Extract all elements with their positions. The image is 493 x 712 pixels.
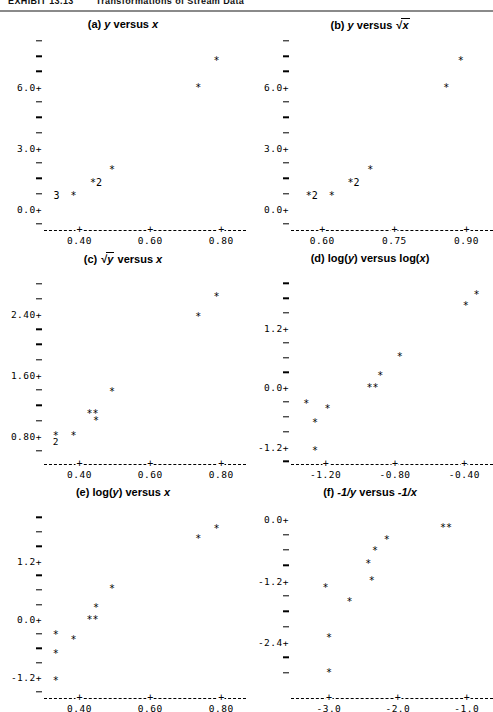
y-tick-mark [36, 40, 42, 41]
y-tick-mark [36, 117, 42, 118]
panel-title-b: (b) y versus √x [247, 18, 493, 31]
x-axis-b: +0.60+0.75+0.90 [291, 230, 493, 231]
data-point: * [326, 633, 332, 643]
panel-versus-word: versus [114, 18, 149, 30]
data-point: *2 [90, 178, 102, 188]
chart-panel-b: (b) y versus √x0.0+3.0+6.0+*2**2***+0.60… [247, 14, 493, 247]
data-point: * [109, 387, 115, 397]
y-tick-label: 1.60+ [11, 369, 42, 380]
panel-title-d: (d) log(y) versus log(x) [247, 252, 493, 264]
data-point: * [70, 431, 76, 441]
panel-x-expression: x [152, 18, 158, 30]
data-point: * [214, 524, 220, 534]
x-tick-label: 0.80 [209, 703, 234, 712]
panel-y-expression: -1/y [337, 486, 356, 498]
x-tick-mark: + [322, 459, 329, 469]
y-tick-mark [36, 589, 42, 590]
data-point: * [347, 597, 353, 607]
x-tick-mark: + [218, 225, 225, 235]
y-tick-mark [36, 389, 42, 390]
y-tick-mark [283, 401, 289, 402]
x-axis-line [44, 464, 246, 465]
y-tick-mark [283, 626, 289, 627]
data-point: * [109, 165, 115, 175]
panel-versus-word: versus [357, 19, 392, 31]
chart-panel-c: (c) √y versus x0.80+1.60+2.40+*2*******+… [0, 248, 246, 481]
x-tick-label: 0.80 [209, 235, 234, 246]
exhibit-header: EXHIBIT 13.13Transformations of Stream D… [0, 0, 493, 9]
x-tick-label: -3.0 [316, 703, 341, 712]
panel-label: (b) [330, 19, 344, 31]
data-point: * [372, 546, 378, 556]
y-tick-mark [283, 372, 289, 373]
y-tick-label: 6.0+ [17, 81, 42, 92]
panel-title-c: (c) √y versus x [0, 252, 246, 265]
y-tick-mark [36, 531, 42, 532]
header-rule [0, 10, 493, 12]
y-tick-mark [283, 595, 289, 596]
chart-panel-e: (e) log(y) versus x-1.2+0.0+1.2+********… [0, 482, 246, 712]
x-tick-label: -1.20 [310, 469, 341, 480]
y-tick-mark [36, 71, 42, 72]
y-tick-label: 1.2+ [264, 322, 289, 333]
y-tick-mark [283, 71, 289, 72]
y-tick-mark [283, 101, 289, 102]
y-tick-mark [36, 633, 42, 634]
data-point: * [324, 404, 330, 414]
y-tick-label: 1.2+ [17, 555, 42, 566]
x-tick-mark: + [147, 693, 154, 703]
y-tick-mark [283, 178, 289, 179]
x-axis-c: +0.40+0.60+0.80 [44, 464, 246, 465]
panel-versus-word: versus [125, 486, 160, 498]
data-point: * [214, 292, 220, 302]
y-tick-mark [283, 657, 289, 658]
x-tick-label: -2.0 [385, 703, 410, 712]
y-axis-e: -1.2+0.0+1.2+ [0, 504, 44, 712]
y-tick-mark [36, 178, 42, 179]
panel-label: (a) [88, 18, 101, 30]
x-axis-e: +0.40+0.60+0.80 [44, 698, 246, 699]
data-point: * [369, 576, 375, 586]
data-point: * [458, 56, 464, 66]
x-tick-mark: + [392, 459, 399, 469]
data-point: * [303, 399, 309, 409]
x-tick-mark: + [147, 225, 154, 235]
data-point: ** [440, 523, 452, 533]
data-point: * [397, 352, 403, 362]
y-tick-label: -1.2+ [258, 575, 289, 586]
panel-versus-word: versus [118, 253, 153, 265]
x-axis-a: +0.40+0.60+0.80 [44, 230, 246, 231]
data-point: * [377, 371, 383, 381]
panel-label: (e) [76, 486, 89, 498]
data-point: * [53, 649, 59, 659]
y-axis-f: -2.4+-1.2+0.0+ [247, 504, 291, 712]
y-tick-label: -1.2+ [11, 672, 42, 683]
y-tick-mark [283, 461, 289, 462]
plot-area-f: -2.4+-1.2+0.0+**********+-3.0+-2.0+-1.0 [247, 504, 493, 712]
y-tick-mark [36, 604, 42, 605]
x-tick-mark: + [394, 693, 401, 703]
panel-y-expression: √y [100, 253, 114, 265]
y-tick-label: -2.4+ [258, 636, 289, 647]
exhibit-title: Transformations of Stream Data [96, 0, 245, 6]
y-tick-mark [283, 357, 289, 358]
points-layer-a: 3**2***+0.40+0.60+0.80 [44, 36, 246, 247]
y-tick-label: -1.2+ [258, 441, 289, 452]
panel-versus-word: versus [361, 252, 396, 264]
x-tick-label: -0.40 [449, 469, 480, 480]
y-tick-mark [36, 132, 42, 133]
y-axis-d: -1.2+0.0+1.2+ [247, 270, 291, 481]
panel-title-a: (a) y versus x [0, 18, 246, 30]
data-point: ** [87, 615, 99, 625]
x-axis-line [44, 698, 246, 699]
x-tick-mark: + [218, 693, 225, 703]
x-tick-mark: + [463, 225, 470, 235]
plot-area-e: -1.2+0.0+1.2+**********+0.40+0.60+0.80 [0, 504, 246, 712]
data-point: * [326, 668, 332, 678]
panel-y-expression: log(y) [328, 252, 358, 264]
x-tick-mark: + [391, 225, 398, 235]
chart-panel-d: (d) log(y) versus log(x)-1.2+0.0+1.2+***… [247, 248, 493, 481]
x-tick-label: 0.40 [67, 235, 92, 246]
y-tick-label: 0.0+ [17, 614, 42, 625]
y-tick-mark [36, 420, 42, 421]
